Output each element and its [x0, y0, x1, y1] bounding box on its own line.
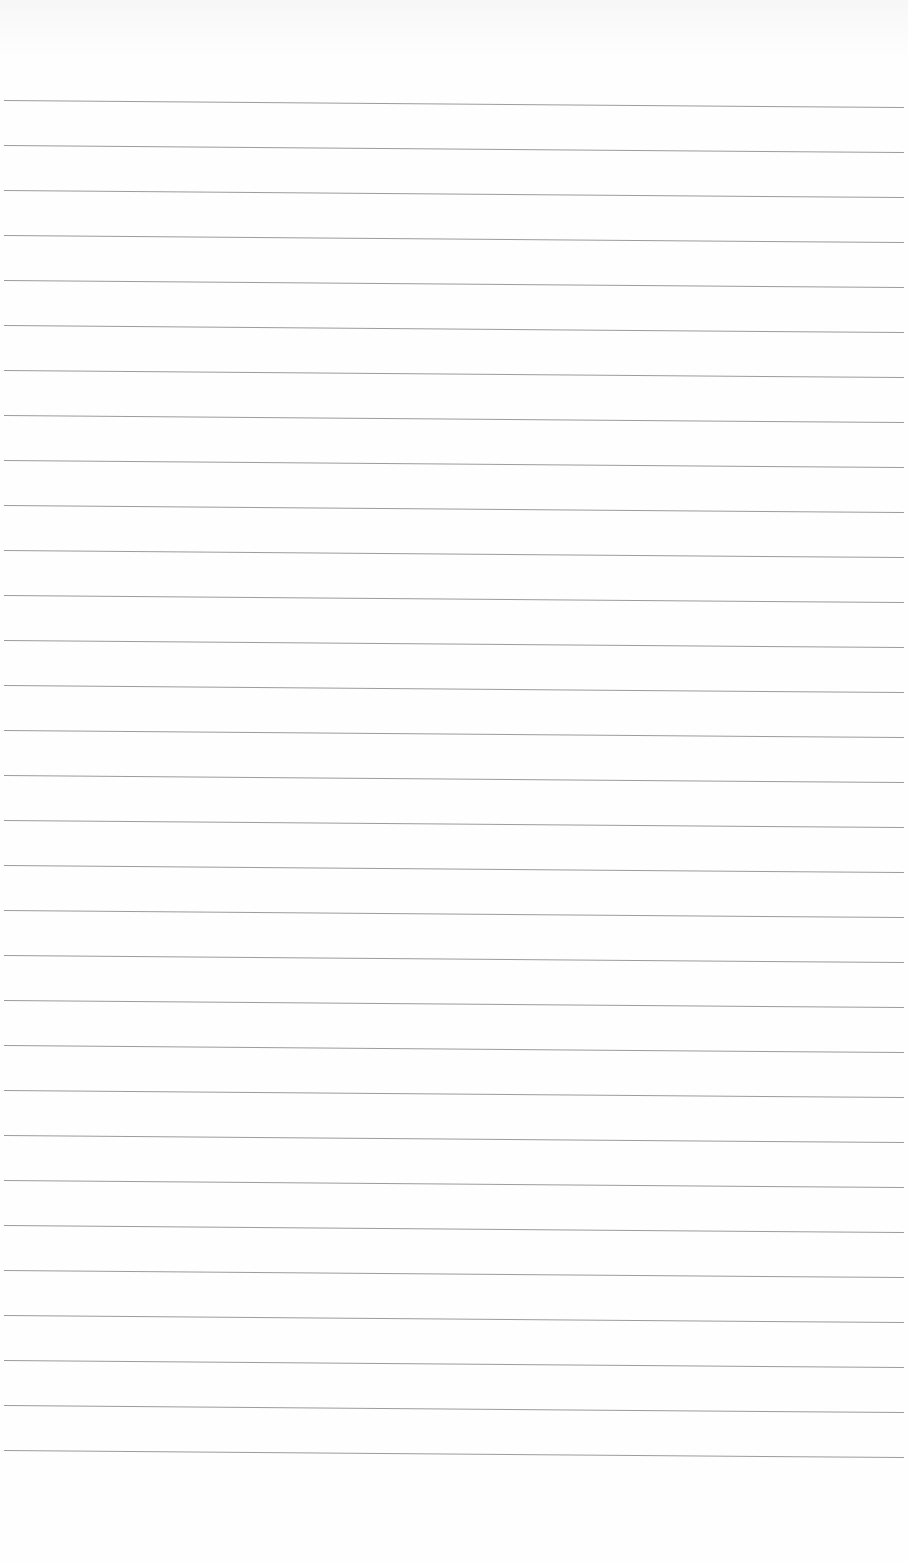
ruled-line [4, 505, 904, 513]
ruled-line [4, 730, 904, 738]
ruled-line [4, 1090, 904, 1098]
ruled-line [4, 190, 904, 198]
ruled-line [4, 1360, 904, 1368]
ruled-line [4, 1270, 904, 1278]
ruled-line [4, 955, 904, 963]
ruled-line [4, 1405, 904, 1413]
ruled-line [4, 460, 904, 468]
ruled-line [4, 1225, 904, 1233]
ruled-line [4, 145, 904, 153]
ruled-line [4, 1315, 904, 1323]
ruled-line [4, 775, 904, 783]
lined-paper-page [0, 0, 908, 1562]
ruled-line [4, 100, 904, 108]
ruled-line [4, 910, 904, 918]
ruled-line [4, 640, 904, 648]
scan-shading [0, 0, 908, 60]
ruled-line [4, 1450, 904, 1458]
ruled-line [4, 685, 904, 693]
ruled-line [4, 235, 904, 243]
ruled-line [4, 1000, 904, 1008]
ruled-line [4, 370, 904, 378]
ruled-line [4, 280, 904, 288]
ruled-line [4, 595, 904, 603]
ruled-line [4, 550, 904, 558]
ruled-line [4, 865, 904, 873]
ruled-line [4, 325, 904, 333]
ruled-line [4, 1045, 904, 1053]
ruled-line [4, 1180, 904, 1188]
ruled-line [4, 820, 904, 828]
ruled-line [4, 1135, 904, 1143]
ruled-line [4, 415, 904, 423]
